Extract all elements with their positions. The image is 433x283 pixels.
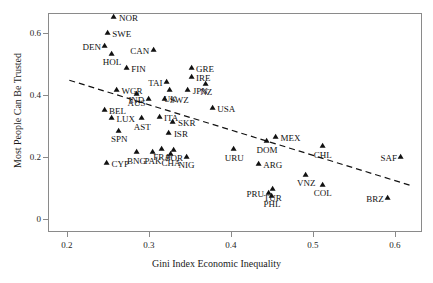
x-tick-label: 0.6 <box>389 241 400 250</box>
data-point-marker <box>150 149 156 154</box>
y-tick-label: 0 <box>37 214 42 223</box>
data-point-label: DOM <box>256 146 277 155</box>
data-point-marker <box>123 65 129 70</box>
x-tick-mark <box>231 232 232 237</box>
data-point-marker <box>255 161 261 166</box>
data-point-label: SWE <box>112 30 131 39</box>
x-tick-label: 0.3 <box>143 241 154 250</box>
data-point-marker <box>398 154 404 159</box>
x-tick-mark <box>149 232 150 237</box>
data-point-marker <box>113 87 119 92</box>
y-tick-label: 0.2 <box>30 153 41 162</box>
data-point-marker <box>168 151 174 156</box>
data-point-marker <box>188 74 194 79</box>
data-point-label: PHL <box>263 200 280 209</box>
data-point-marker <box>264 138 270 143</box>
data-point-label: BNG <box>127 157 146 166</box>
data-point-marker <box>150 47 156 52</box>
data-point-label: FIN <box>131 64 146 73</box>
data-point-label: SPN <box>111 135 128 144</box>
data-point-marker <box>101 107 107 112</box>
data-point-marker <box>104 30 110 35</box>
data-point-marker <box>139 115 145 120</box>
y-tick-mark <box>43 219 48 220</box>
data-point-label: SKR <box>178 118 196 127</box>
data-point-marker <box>116 127 122 132</box>
y-tick-mark <box>43 157 48 158</box>
x-tick-mark <box>67 232 68 237</box>
data-point-marker <box>203 80 209 85</box>
data-point-label: LUX <box>116 115 135 124</box>
data-point-marker <box>209 105 215 110</box>
data-point-label: DEN <box>82 42 101 51</box>
data-point-marker <box>133 149 139 154</box>
data-point-marker <box>170 119 176 124</box>
data-point-marker <box>111 14 117 19</box>
data-point-label: PAK <box>144 157 161 166</box>
data-point-label: TAI <box>148 79 162 88</box>
data-point-marker <box>145 96 151 101</box>
data-point-marker <box>231 146 237 151</box>
data-point-label: ARG <box>263 160 282 169</box>
y-tick-label: 0.6 <box>30 29 41 38</box>
x-axis-title: Gini Index Economic Inequality <box>0 258 433 269</box>
data-point-label: NOR <box>119 14 138 23</box>
data-point-label: SAF <box>380 154 397 163</box>
data-point-label: COL <box>314 189 332 198</box>
x-tick-mark <box>313 232 314 237</box>
data-point-label: ISR <box>174 129 188 138</box>
y-tick-label: 0.4 <box>30 91 41 100</box>
data-point-label: SWZ <box>170 96 189 105</box>
data-point-marker <box>167 87 173 92</box>
data-point-label: USA <box>217 105 235 114</box>
data-point-label: CHL <box>314 151 332 160</box>
data-point-marker <box>319 143 325 148</box>
x-tick-label: 0.2 <box>61 241 72 250</box>
data-point-label: BRZ <box>366 194 384 203</box>
data-point-label: PRU <box>247 190 265 199</box>
data-point-marker <box>102 43 108 48</box>
data-point-marker <box>269 192 275 197</box>
x-tick-label: 0.4 <box>225 241 236 250</box>
y-axis-title: Most People Can Be Trusted <box>12 31 23 191</box>
y-tick-mark <box>43 95 48 96</box>
data-point-marker <box>104 160 110 165</box>
data-point-marker <box>156 114 162 119</box>
data-point-marker <box>162 96 168 101</box>
y-tick-mark <box>43 33 48 34</box>
data-point-marker <box>303 171 309 176</box>
data-point-marker <box>188 65 194 70</box>
data-point-label: IND <box>128 96 144 105</box>
data-point-marker <box>385 194 391 199</box>
data-point-label: AST <box>134 123 151 132</box>
data-point-marker <box>319 181 325 186</box>
data-point-label: JPN <box>193 87 208 96</box>
data-point-marker <box>159 145 165 150</box>
data-point-marker <box>109 115 115 120</box>
data-point-marker <box>273 134 279 139</box>
plot-area: 00.20.40.60.20.30.40.50.6NORSWEDENCANHOL… <box>48 13 422 232</box>
x-tick-label: 0.5 <box>307 241 318 250</box>
data-point-label: URU <box>225 154 244 163</box>
data-point-label: VNZ <box>297 179 316 188</box>
data-point-label: NIG <box>179 161 195 170</box>
data-point-label: HOL <box>103 58 122 67</box>
data-point-marker <box>164 79 170 84</box>
data-point-marker <box>183 154 189 159</box>
x-tick-mark <box>395 232 396 237</box>
data-point-marker <box>166 130 172 135</box>
data-point-label: CYP <box>112 160 130 169</box>
data-point-marker <box>185 87 191 92</box>
data-point-marker <box>109 51 115 56</box>
data-point-label: MEX <box>281 133 301 142</box>
data-point-label: CAN <box>130 47 149 56</box>
scatter-plot-figure: 00.20.40.60.20.30.40.50.6NORSWEDENCANHOL… <box>0 0 433 283</box>
